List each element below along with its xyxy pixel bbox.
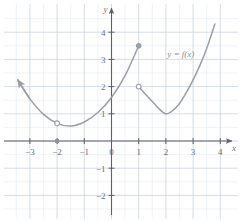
x-tick-label: 1 (136, 147, 141, 157)
y-tick-label: 2 (101, 82, 106, 92)
y-tick-label: −1 (96, 164, 106, 174)
curve-label: y = f(x) (166, 49, 194, 59)
y-tick-label: −2 (96, 191, 106, 201)
x-tick-label: −3 (25, 147, 35, 157)
x-tick-label: −2 (52, 147, 62, 157)
function-graph-figure: −3−2−101234−2−11234 y = f(x) x y (0, 0, 242, 221)
x-tick-label: −1 (80, 147, 90, 157)
x-axis-label: x (231, 143, 236, 153)
x-tick-label: 2 (164, 147, 169, 157)
plot-background (0, 0, 242, 221)
hole-left-branch (55, 121, 60, 126)
graph-canvas: −3−2−101234−2−11234 y = f(x) x y (0, 0, 242, 221)
y-tick-label: 3 (101, 55, 106, 65)
y-tick-label: 1 (101, 109, 106, 119)
x-tick-label: 3 (191, 147, 196, 157)
tick-dot-x-minus-2 (55, 139, 59, 143)
x-tick-label: 4 (218, 147, 223, 157)
y-tick-label: 4 (101, 28, 106, 38)
endpoint-left-branch (136, 43, 141, 48)
x-tick-label: 0 (109, 147, 114, 157)
y-axis-label: y (103, 4, 108, 14)
hole-right-branch (136, 84, 141, 89)
